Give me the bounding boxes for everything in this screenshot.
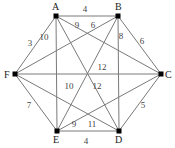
edge-weight-AD: 12 — [93, 81, 102, 91]
edge-weight-CD: 5 — [141, 100, 146, 110]
edge-weight-BF: 6 — [91, 20, 96, 30]
edge-weight-AC: 9 — [75, 20, 80, 30]
node-label-B: B — [115, 1, 122, 12]
edge-AF — [15, 16, 56, 74]
node-B — [116, 14, 121, 19]
node-C — [159, 72, 164, 77]
node-label-D: D — [115, 134, 122, 145]
edge-weight-CE: 9 — [72, 119, 77, 129]
node-A — [54, 14, 59, 19]
edge-weight-BE: 10 — [65, 81, 75, 91]
node-label-F: F — [4, 69, 10, 80]
edge-weight-ED: 4 — [84, 136, 89, 146]
node-label-A: A — [52, 1, 60, 12]
edge-weight-FD: 11 — [88, 119, 97, 129]
edge-weight-AE: 10 — [40, 32, 50, 42]
node-label-E: E — [53, 134, 59, 145]
node-D — [117, 129, 122, 134]
edge-weight-FC: 12 — [98, 62, 107, 72]
edge-weight-AB: 4 — [83, 4, 88, 14]
graph-diagram: 43109126681012711594 ABCDEF — [0, 0, 175, 148]
node-label-C: C — [165, 69, 172, 80]
node-E — [55, 129, 60, 134]
node-F — [13, 72, 18, 77]
edges-layer — [15, 16, 161, 131]
edge-weight-BD: 8 — [119, 31, 124, 41]
edge-FE — [15, 74, 57, 131]
edge-weight-AF: 3 — [28, 38, 33, 48]
edge-weight-FE: 7 — [27, 100, 32, 110]
edge-weight-BC: 6 — [140, 36, 145, 46]
weighted-graph-canvas: 43109126681012711594 ABCDEF — [0, 0, 175, 148]
